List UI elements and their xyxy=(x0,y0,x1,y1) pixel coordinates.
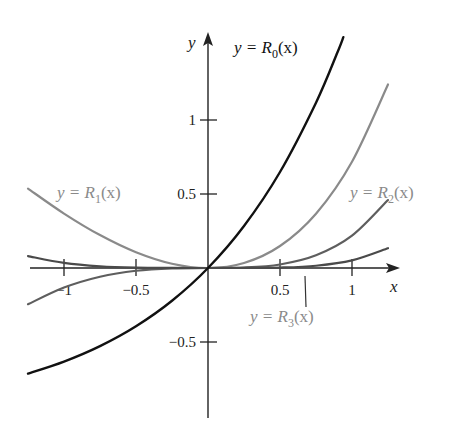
label-r0: y = R0(x) xyxy=(232,38,298,61)
y-tick-label: 0.5 xyxy=(177,186,196,202)
chart-canvas: −1−0.50.51 10.5−0.5 x y y = R0(x) y = R1… xyxy=(0,0,453,432)
y-ticks: 10.5−0.5 xyxy=(169,112,217,350)
r3-label-pointer xyxy=(305,276,306,307)
x-tick-label: −0.5 xyxy=(122,282,149,298)
y-tick-label: 1 xyxy=(189,112,197,128)
x-axis-label: x xyxy=(389,277,398,296)
x-tick-label: 0.5 xyxy=(271,282,290,298)
label-r2: y = R2(x) xyxy=(348,183,414,206)
label-r1: y = R1(x) xyxy=(55,183,121,206)
label-r3: y = R3(x) xyxy=(248,307,314,330)
axes: −1−0.50.51 10.5−0.5 x y xyxy=(30,32,400,418)
x-tick-label: 1 xyxy=(348,282,356,298)
y-axis-label: y xyxy=(186,33,196,52)
x-ticks: −1−0.50.51 xyxy=(56,259,356,298)
y-tick-label: −0.5 xyxy=(169,334,196,350)
